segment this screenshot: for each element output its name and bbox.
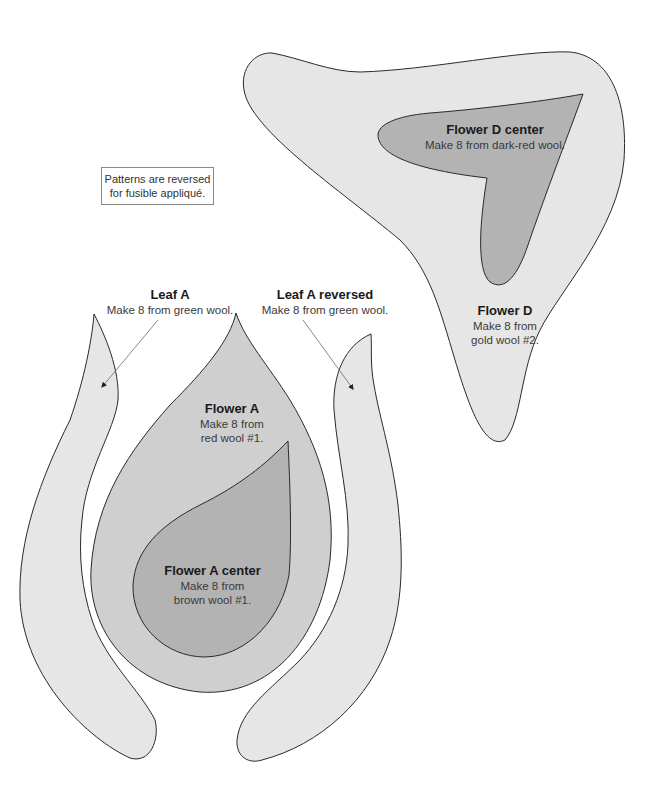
pattern-artwork [0,0,648,800]
leaf-a-reversed-leader-arrow [303,320,353,389]
flower-a-instruction-1: Make 8 from [182,417,282,431]
flower-d-title: Flower D [450,303,560,319]
leaf-a-title: Leaf A [95,287,245,303]
flower-a-center-label: Flower A center Make 8 from brown wool #… [155,563,270,607]
flower-d-center-title: Flower D center [410,122,580,138]
flower-a-center-instruction-1: Make 8 from [155,579,270,593]
flower-a-center-title: Flower A center [155,563,270,579]
flower-a-title: Flower A [182,401,282,417]
flower-d-label: Flower D Make 8 from gold wool #2. [450,303,560,347]
flower-a-instruction-2: red wool #1. [182,431,282,445]
flower-d-center-label: Flower D center Make 8 from dark-red woo… [410,122,580,152]
leaf-a-instruction: Make 8 from green wool. [95,303,245,317]
flower-a-center-instruction-2: brown wool #1. [155,593,270,607]
flower-d-instruction-1: Make 8 from [450,319,560,333]
flower-d-instruction-2: gold wool #2. [450,333,560,347]
reversed-patterns-note: Patterns are reversed for fusible appliq… [101,167,214,205]
leaf-a-reversed-title: Leaf A reversed [250,287,400,303]
leaf-a-reversed-instruction: Make 8 from green wool. [250,303,400,317]
leaf-a-reversed-label: Leaf A reversed Make 8 from green wool. [250,287,400,317]
flower-d-center-instruction: Make 8 from dark-red wool. [410,138,580,152]
leaf-a-label: Leaf A Make 8 from green wool. [95,287,245,317]
note-line-1: Patterns are reversed [102,172,213,186]
note-line-2: for fusible appliqué. [102,186,213,200]
flower-a-label: Flower A Make 8 from red wool #1. [182,401,282,445]
